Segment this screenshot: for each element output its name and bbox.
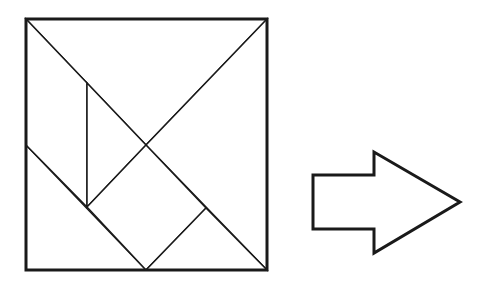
tangram-square (26, 19, 267, 270)
tangram-diagram (0, 0, 483, 285)
right-arrow-icon (313, 152, 460, 253)
